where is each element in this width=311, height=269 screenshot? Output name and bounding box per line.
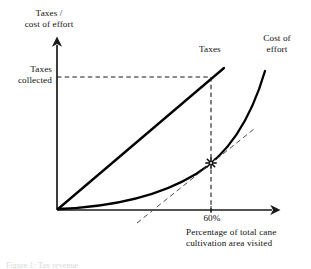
cost-curve-label-line1: Cost of [250, 33, 304, 44]
series-label-taxes: Taxes [199, 44, 221, 55]
cost-curve-label-line2: effort [250, 44, 304, 55]
tangent-line [137, 129, 254, 223]
taxes-collected-label: Taxes collected [0, 64, 52, 85]
figure-caption: Figure 1: Tax revenue [6, 261, 166, 269]
taxes-collected-line1: Taxes [0, 64, 52, 75]
y-axis-title-line1: Taxes / [6, 8, 92, 19]
x-axis-title-line2: cultivation area visited [186, 238, 310, 249]
series-taxes-line [58, 68, 224, 209]
y-axis-title: Taxes / cost of effort [6, 8, 92, 29]
taxes-collected-line2: collected [0, 75, 52, 86]
y-axis-title-line2: cost of effort [6, 19, 92, 30]
x-axis-tick-label-60: 60% [197, 213, 227, 224]
series-cost-of-effort-curve [58, 71, 265, 209]
x-axis-title-line1: Percentage of total cane [186, 227, 310, 238]
chart-figure: Taxes / cost of effort Taxes collected T… [0, 0, 311, 269]
series-label-cost-of-effort: Cost of effort [250, 33, 304, 54]
x-axis-title: Percentage of total cane cultivation are… [186, 227, 310, 248]
tangency-star-marker [206, 158, 217, 169]
